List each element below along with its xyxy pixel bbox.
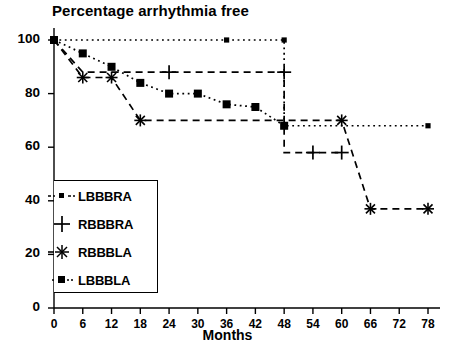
data-point-asterisk <box>364 203 376 215</box>
legend-label: RBBBLA <box>78 245 132 260</box>
legend-item: LBBBLA <box>48 267 130 293</box>
y-tick-label: 20 <box>6 245 40 260</box>
data-point-square <box>251 103 259 111</box>
data-point-plus <box>277 65 291 79</box>
legend-item: RBBBRA <box>48 211 133 237</box>
legend-marker-small-square-icon <box>48 186 78 206</box>
data-point-small-square <box>282 37 287 42</box>
data-point-plus <box>162 65 176 79</box>
data-point-small-square <box>425 123 430 128</box>
y-tick-label: 80 <box>6 85 40 100</box>
data-point-small-square <box>224 37 229 42</box>
legend-label: LBBBLA <box>78 273 130 288</box>
y-tick-label: 60 <box>6 138 40 153</box>
legend-item: RBBBLA <box>48 239 132 265</box>
data-point-square <box>79 49 87 57</box>
data-point-plus <box>335 146 349 160</box>
series-lbbbra <box>51 37 430 128</box>
plot-area <box>0 0 455 352</box>
series-line-lbbbla <box>54 40 284 126</box>
legend-marker-plus-icon <box>48 214 78 234</box>
y-tick-label: 0 <box>6 299 40 314</box>
data-point-square <box>108 63 116 71</box>
series-rbbbra <box>54 40 349 160</box>
legend-label: RBBBRA <box>78 217 133 232</box>
y-tick-label: 100 <box>6 31 40 46</box>
chart-root: Percentage arrhythmia free 020406080100 … <box>0 0 455 352</box>
data-point-square <box>194 90 202 98</box>
legend-label: LBBBRA <box>78 189 132 204</box>
data-point-plus <box>306 146 320 160</box>
x-axis-title: Months <box>0 327 455 343</box>
y-tick-label: 40 <box>6 192 40 207</box>
series-lbbbla <box>50 36 288 130</box>
series-line-lbbbra <box>54 40 428 126</box>
data-point-square <box>50 36 58 44</box>
legend: LBBBRA RBBBRA RBBBLA <box>54 180 158 293</box>
data-point-asterisk <box>336 114 348 126</box>
legend-item: LBBBRA <box>48 183 132 209</box>
data-point-asterisk <box>134 114 146 126</box>
data-point-square <box>136 79 144 87</box>
data-point-square <box>280 122 288 130</box>
data-point-asterisk <box>106 72 118 84</box>
data-point-asterisk <box>422 203 434 215</box>
data-point-asterisk <box>77 72 89 84</box>
legend-marker-asterisk-icon <box>48 242 78 262</box>
data-point-square <box>165 90 173 98</box>
data-point-square <box>223 100 231 108</box>
legend-marker-square-icon <box>48 270 78 290</box>
